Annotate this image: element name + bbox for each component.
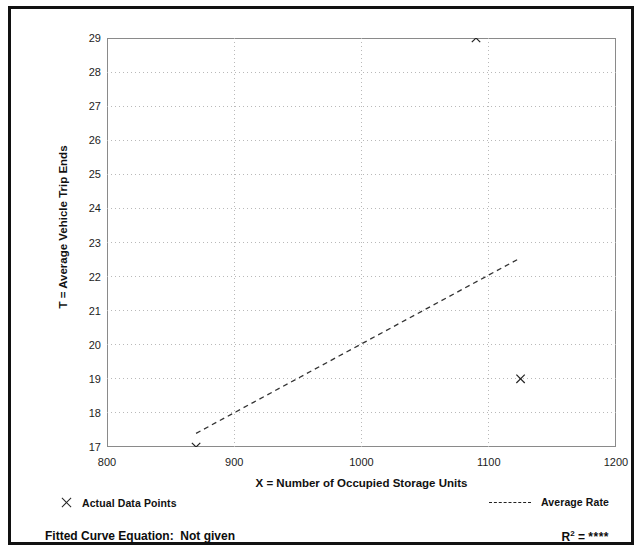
dashed-line-icon <box>489 502 531 503</box>
x-axis-tick-labels: 800900100011001200 <box>107 457 616 473</box>
figure-frame: 17181920212223242526272829 8009001000110… <box>8 6 634 545</box>
y-tick-label: 26 <box>67 135 101 146</box>
chart-footer: Fitted Curve Equation: Not given R2 = **… <box>11 529 637 552</box>
y-tick-label: 21 <box>67 305 101 316</box>
y-tick-label: 20 <box>67 339 101 350</box>
r-squared-symbol: R <box>562 530 571 544</box>
y-tick-label: 22 <box>67 271 101 282</box>
y-tick-label: 27 <box>67 101 101 112</box>
r-squared-statistic: R2 = **** <box>562 529 610 544</box>
legend-item-actual-data-points: Actual Data Points <box>59 496 177 509</box>
legend-label-average-rate: Average Rate <box>541 496 609 508</box>
scan-edge-artifact <box>0 0 642 3</box>
y-axis-title: T = Average Vehicle Trip Ends <box>57 97 69 357</box>
x-tick-label: 900 <box>204 457 264 468</box>
legend-item-average-rate: Average Rate <box>489 496 609 508</box>
x-axis-title: X = Number of Occupied Storage Units <box>107 477 616 489</box>
x-tick-label: 1200 <box>586 457 642 468</box>
y-tick-label: 29 <box>67 33 101 44</box>
legend-label-actual-data-points: Actual Data Points <box>82 497 177 509</box>
y-tick-label: 24 <box>67 203 101 214</box>
chart-legend: Actual Data Points Average Rate <box>11 496 637 522</box>
y-tick-label: 18 <box>67 407 101 418</box>
y-tick-label: 28 <box>67 67 101 78</box>
x-cross-icon <box>59 496 72 509</box>
x-tick-label: 1000 <box>332 457 392 468</box>
x-tick-label: 1100 <box>459 457 519 468</box>
y-tick-label: 17 <box>67 442 101 453</box>
r-squared-value: **** <box>588 530 609 544</box>
data-layer <box>107 38 616 447</box>
fitted-curve-equation: Fitted Curve Equation: Not given <box>45 529 235 543</box>
r-squared-equals: = <box>575 530 589 544</box>
y-tick-label: 25 <box>67 169 101 180</box>
plot-area <box>107 38 616 447</box>
y-tick-label: 23 <box>67 237 101 248</box>
x-tick-label: 800 <box>77 457 137 468</box>
y-tick-label: 19 <box>67 373 101 384</box>
